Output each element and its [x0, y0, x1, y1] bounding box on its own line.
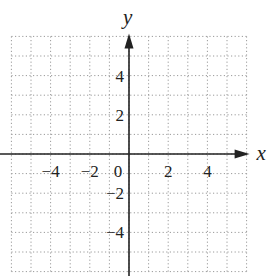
x-axis-label: x	[256, 141, 267, 165]
x-tick-label: 2	[164, 162, 173, 181]
x-tick-label: 0	[114, 162, 123, 181]
y-tick-label: −4	[106, 223, 125, 242]
x-tick-label: 4	[203, 162, 212, 181]
y-axis-arrow-icon	[125, 33, 134, 48]
x-tick-label: −2	[81, 162, 99, 181]
x-axis-arrow-icon	[235, 150, 250, 159]
y-tick-label: 4	[116, 67, 125, 86]
y-axis-label: y	[121, 5, 133, 29]
x-tick-label: −4	[42, 162, 61, 181]
y-tick-label: 2	[116, 106, 125, 125]
coordinate-plane: xy−4−202442−2−4	[0, 0, 278, 276]
y-tick-label: −2	[106, 184, 124, 203]
